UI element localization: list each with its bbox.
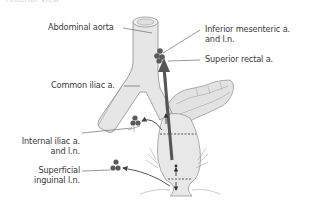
label-abdominal-aorta: Abdominal aorta: [48, 23, 114, 33]
internal-iliac-lymph-nodes: [130, 115, 140, 125]
lymphatic-drainage-diagram: Anterior view: [0, 0, 312, 202]
label-common-iliac-artery: Common iliac a.: [51, 81, 115, 91]
label-superficial-inguinal-line2: inguinal l.n.: [34, 176, 80, 186]
abdominal-aorta-shape: [98, 17, 172, 133]
label-inferior-mesenteric-line2: and l.n.: [205, 35, 234, 45]
superficial-inguinal-lymph-nodes: [110, 159, 120, 170]
label-superior-rectal-artery: Superior rectal a.: [205, 55, 273, 65]
rectum-shape: [140, 114, 220, 197]
label-internal-iliac-line2: and l.n.: [51, 147, 80, 157]
